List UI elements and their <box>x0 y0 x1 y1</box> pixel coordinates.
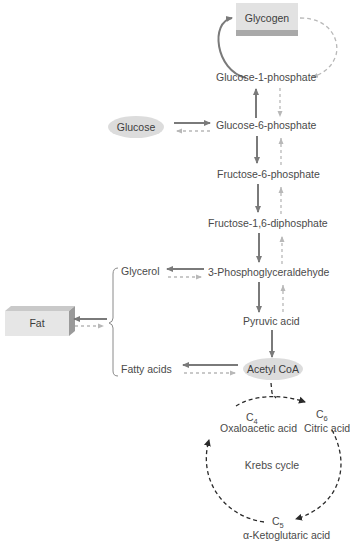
acetyl-coa-node: Acetyl CoA <box>243 358 303 380</box>
fatty-acids-label: Fatty acids <box>121 363 172 375</box>
citric-to-ketoglutaric-arrow <box>296 430 341 519</box>
fructose-6-phosphate-label: Fructose-6-phosphate <box>217 168 320 180</box>
acetyl-coa-label: Acetyl CoA <box>247 363 299 375</box>
alpha-ketoglutaric-acid-label: α-Ketoglutaric acid <box>243 529 330 541</box>
glucose-node: Glucose <box>108 116 164 138</box>
fat-label: Fat <box>29 317 44 329</box>
3-phosphoglyceraldehyde-label: 3-Phosphoglyceraldehyde <box>208 266 330 278</box>
ketoglutaric-to-oxaloacetic-arrow <box>206 440 264 522</box>
glycogen-to-g1p-dashed-arrow <box>300 18 337 77</box>
citric-acid-label: Citric acid <box>304 422 350 434</box>
glucose-6-phosphate-label: Glucose-6-phosphate <box>216 119 317 131</box>
citric-carbon-label: C6 <box>316 408 328 423</box>
glycogen-label: Glycogen <box>245 12 290 24</box>
glycogen-node: Glycogen <box>236 3 298 36</box>
krebs-cycle: C4 Oxaloacetic acid C6 Citric acid Krebs… <box>206 383 350 541</box>
pyruvic-acid-label: Pyruvic acid <box>243 315 300 327</box>
oxaloacetic-to-citric-arrow <box>236 397 305 406</box>
metabolic-pathway-diagram: Glycogen Glucose-1-phosphate Glucose Glu… <box>0 0 350 550</box>
glucose-1-phosphate-label: Glucose-1-phosphate <box>216 71 317 83</box>
ketoglutaric-carbon-label: C5 <box>272 515 284 530</box>
glycerol-label: Glycerol <box>121 265 160 277</box>
acetyl-coa-to-krebs-arrow <box>271 383 276 398</box>
fat-components-bracket <box>109 268 118 376</box>
oxaloacetic-acid-label: Oxaloacetic acid <box>220 422 297 434</box>
fat-node: Fat <box>5 306 75 336</box>
fructose-1-6-diphosphate-label: Fructose-1,6-diphosphate <box>208 217 328 229</box>
krebs-cycle-label: Krebs cycle <box>245 459 299 471</box>
glucose-label: Glucose <box>117 121 156 133</box>
